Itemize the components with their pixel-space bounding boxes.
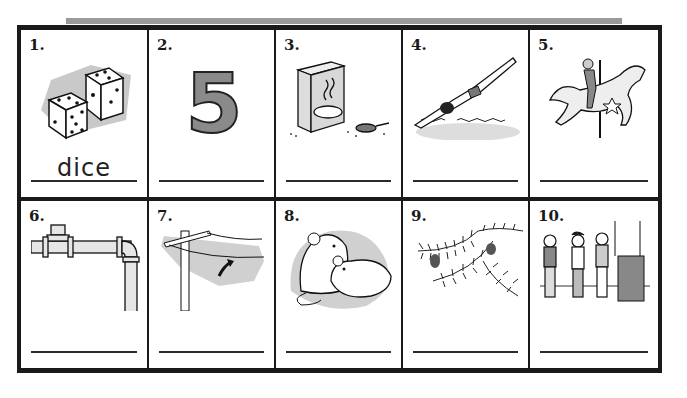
worksheet-row-1: 1. dice 2. 5 bbox=[21, 30, 658, 197]
answer-line[interactable] bbox=[159, 180, 264, 182]
item-8: 8. bbox=[276, 201, 403, 368]
item-4: 4. bbox=[403, 30, 530, 197]
item-6: 6. bbox=[21, 201, 149, 368]
worksheet-grid: 1. dice 2. 5 bbox=[17, 25, 662, 373]
answer-line[interactable] bbox=[413, 180, 518, 182]
item-5: 5. bbox=[530, 30, 658, 197]
pine-branch-icon bbox=[413, 221, 523, 311]
diver-icon bbox=[413, 50, 523, 140]
number-five-icon: 5 bbox=[159, 50, 269, 140]
answer-line[interactable] bbox=[540, 351, 648, 353]
pipe-icon bbox=[31, 221, 141, 311]
item-1: 1. dice bbox=[21, 30, 149, 197]
answer-line[interactable] bbox=[159, 351, 264, 353]
item-3: 3. bbox=[276, 30, 403, 197]
carousel-horse-icon bbox=[540, 50, 650, 140]
answer-text: dice bbox=[21, 156, 147, 180]
item-9: 9. bbox=[403, 201, 530, 368]
svg-text:5: 5 bbox=[185, 56, 242, 140]
item-10: 10. bbox=[530, 201, 658, 368]
answer-line[interactable] bbox=[286, 180, 391, 182]
answer-line[interactable] bbox=[413, 351, 518, 353]
worksheet-row-2: 6. 7. bbox=[21, 201, 658, 368]
answer-line[interactable] bbox=[540, 180, 648, 182]
dice-icon bbox=[31, 50, 141, 140]
item-7: 7. bbox=[149, 201, 276, 368]
utility-pole-icon bbox=[159, 221, 269, 311]
answer-line[interactable] bbox=[31, 180, 137, 182]
children-in-line-icon bbox=[540, 221, 650, 311]
answer-line[interactable] bbox=[31, 351, 137, 353]
item-2: 2. 5 bbox=[149, 30, 276, 197]
answer-line[interactable] bbox=[286, 351, 391, 353]
decorative-top-bar bbox=[66, 18, 622, 24]
mice-icon bbox=[286, 221, 396, 311]
cereal-box-icon bbox=[286, 50, 396, 140]
